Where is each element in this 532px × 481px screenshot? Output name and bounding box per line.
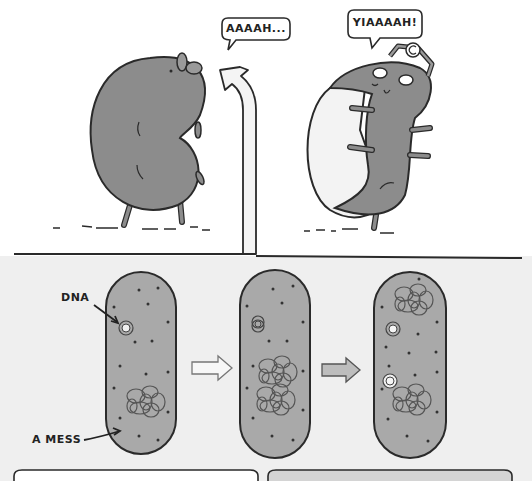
speech-text-left: AAAAH... (224, 22, 288, 35)
cell-replicating (240, 270, 310, 458)
outline-arrow (192, 356, 232, 380)
right-creature (308, 43, 433, 228)
cell-original (106, 272, 176, 454)
left-creature (91, 53, 206, 225)
ground-right (304, 229, 394, 233)
big-up-arrow (220, 67, 256, 254)
comic-art (0, 0, 532, 481)
dna-label: DNA (61, 291, 89, 304)
caption-boxes (14, 470, 512, 481)
ground-left (53, 226, 210, 230)
cell-dividing (374, 272, 446, 458)
speech-text-right: YIAAAAH! (350, 16, 420, 29)
mess-label: A MESS (32, 433, 81, 446)
gray-arrow (322, 358, 360, 382)
